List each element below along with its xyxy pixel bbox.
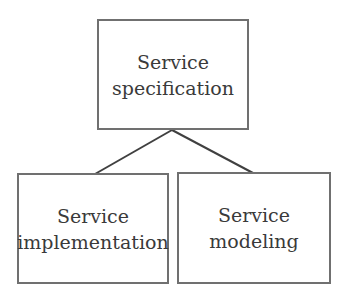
node-label-line2: modeling (209, 228, 298, 254)
node-service-modeling: Service modeling (177, 172, 331, 284)
edge-spec-to-implementation (95, 130, 172, 174)
node-label-line1: Service (218, 202, 290, 228)
node-label-line1: Service (137, 49, 209, 75)
node-label-line2: specification (112, 75, 234, 101)
edge-spec-to-modeling (172, 130, 253, 173)
node-label-line1: Service (57, 203, 129, 229)
node-service-implementation: Service implementation (17, 173, 169, 284)
node-label-line2: implementation (17, 229, 168, 255)
node-service-specification: Service specification (97, 19, 249, 130)
